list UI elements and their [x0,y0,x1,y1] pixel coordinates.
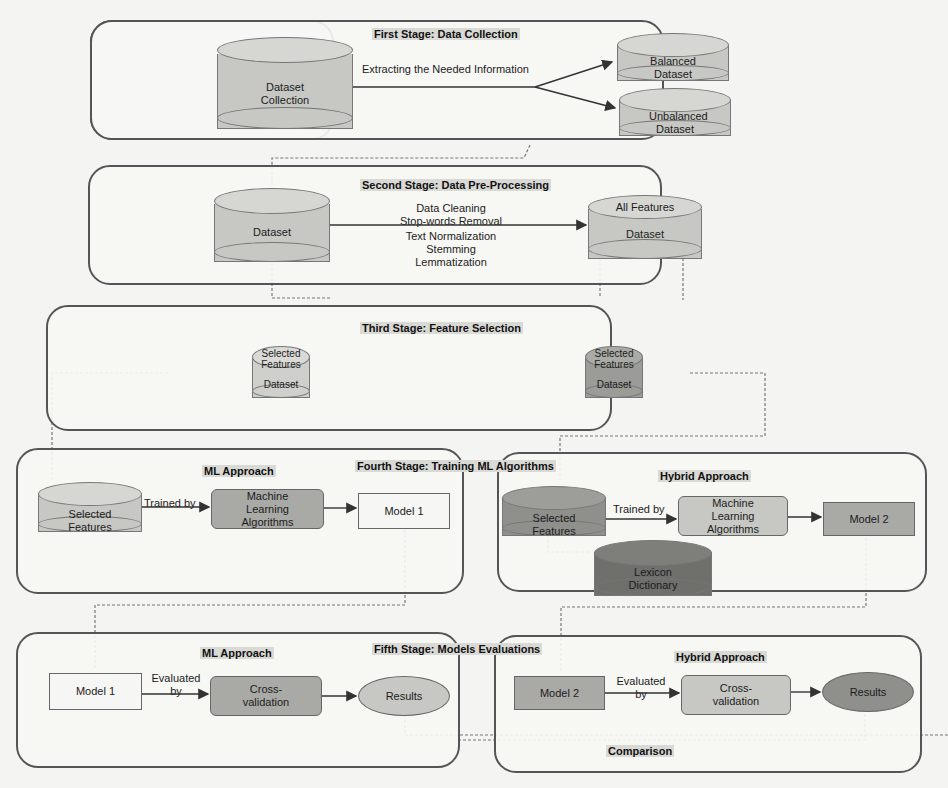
selected-features-cylinder-hybrid: Selected Features [502,486,606,536]
third-stage-panel [46,305,612,431]
ml-algorithms-box-hybrid: Machine Learning Algorithms [678,496,788,536]
unbalanced-dataset-cylinder: Unbalanced Dataset [619,88,731,136]
second-stage-title: Second Stage: Data Pre-Processing [360,179,551,191]
results-oval-hybrid: Results [822,672,914,712]
ml-approach-heading-4: ML Approach [202,465,276,477]
preprocessing-steps-bottom: Text Normalization Stemming Lemmatizatio… [386,230,516,269]
model-1-box-eval: Model 1 [49,673,142,710]
hybrid-approach-heading-5: Hybrid Approach [674,651,767,663]
comparison-label: Comparison [606,745,674,757]
lexicon-dictionary-cylinder: Lexicon Dictionary [594,540,712,596]
all-features-dataset-cylinder: All Features Dataset [588,195,702,259]
ml-approach-heading-5: ML Approach [200,647,274,659]
third-stage-title: Third Stage: Feature Selection [360,322,523,334]
dataset-cylinder: Dataset [214,188,330,262]
evaluated-by-label-ml: Evaluated by [145,672,207,698]
preprocessing-steps-top: Data Cleaning Stop-words Removal [386,202,516,228]
fifth-stage-title: Fifth Stage: Models Evaluations [372,643,542,655]
results-oval-ml: Results [358,676,450,716]
extract-arrow-label: Extracting the Needed Information [362,63,529,76]
selected-features-dataset-cylinder-ml: Selected Features Dataset [252,346,310,398]
cross-validation-box-ml: Cross-validation [210,676,322,716]
ml-algorithms-box-ml: Machine Learning Algorithms [211,489,324,529]
model-1-box-train: Model 1 [358,493,450,529]
cross-validation-box-hybrid: Cross-validation [681,675,791,715]
model-2-box-train: Model 2 [823,502,915,536]
balanced-dataset-cylinder: Balanced Dataset [617,33,729,81]
first-stage-title: First Stage: Data Collection [372,28,520,40]
trained-by-label-ml: Trained by [144,497,196,510]
fourth-stage-title: Fourth Stage: Training ML Algorithms [355,460,556,472]
selected-features-dataset-cylinder-hybrid: Selected Features Dataset [585,346,643,398]
trained-by-label-hybrid: Trained by [613,503,665,516]
dataset-collection-cylinder: Dataset Collection [217,37,353,129]
model-2-box-eval: Model 2 [514,676,605,710]
selected-features-cylinder-ml: Selected Features [38,482,142,532]
evaluated-by-label-hybrid: Evaluated by [610,675,672,701]
hybrid-approach-heading-4: Hybrid Approach [658,470,751,482]
